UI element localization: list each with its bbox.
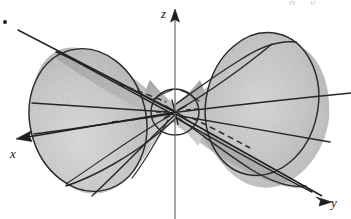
z-axis-label: z [161, 7, 166, 20]
figure-container: p, y [0, 0, 351, 219]
hyperboloid-figure [0, 0, 351, 219]
x-axis-label: x [10, 147, 16, 160]
left-cap-ellipse [14, 36, 161, 204]
x-axis-arrowhead [16, 131, 32, 142]
y-axis-label: y [331, 196, 337, 209]
y-axis-arrowhead [316, 197, 332, 206]
